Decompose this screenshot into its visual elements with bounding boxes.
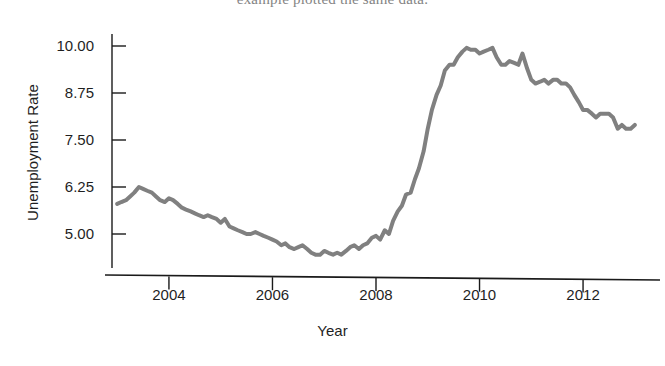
data-line-unemployment-rate [117,48,635,255]
plot-area [0,0,665,366]
chart-figure: example plotted the same data. Unemploym… [0,0,665,366]
y-axis-ticks [112,46,126,234]
x-axis-line [105,275,660,280]
axes [105,34,660,292]
